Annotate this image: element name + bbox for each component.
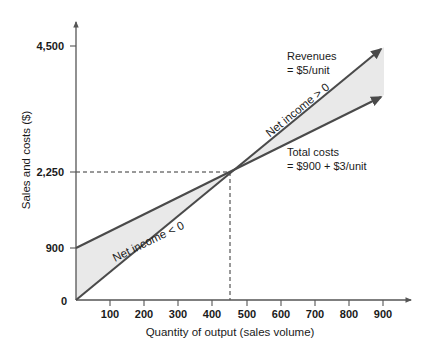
revenue-line [76, 49, 381, 300]
y-axis-title: Sales and costs ($) [20, 111, 32, 210]
y-tick-label-4500: 4,500 [36, 40, 64, 52]
x-tick-label-400: 400 [203, 308, 221, 320]
y-tick-label-2250: 2,250 [36, 166, 64, 178]
x-tick-label-100: 100 [101, 308, 119, 320]
x-tick-label-900: 900 [374, 308, 392, 320]
y-tick-label-0: 0 [61, 295, 67, 307]
x-tick-label-500: 500 [238, 308, 256, 320]
y-tick-label-900: 900 [46, 242, 64, 254]
revenues-label-line2: = $5/unit [287, 64, 330, 76]
total-costs-label-line1: Total costs [287, 146, 339, 158]
x-tick-label-300: 300 [169, 308, 187, 320]
total-costs-label-line2: = $900 + $3/unit [287, 160, 367, 172]
chart-canvas: 4,500 2,250 900 0 100 200 300 400 500 60… [0, 0, 433, 345]
x-tick-label-700: 700 [306, 308, 324, 320]
x-tick-label-200: 200 [135, 308, 153, 320]
cvp-breakeven-chart: 4,500 2,250 900 0 100 200 300 400 500 60… [0, 0, 433, 345]
x-tick-label-600: 600 [272, 308, 290, 320]
x-tick-label-800: 800 [340, 308, 358, 320]
x-axis-title: Quantity of output (sales volume) [146, 326, 315, 338]
revenues-label-line1: Revenues [287, 50, 337, 62]
